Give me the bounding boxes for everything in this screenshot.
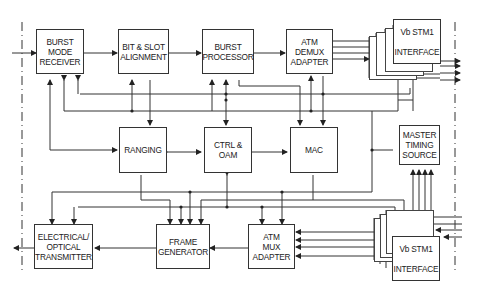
ctrl-oam-block: CTRL & OAM xyxy=(204,127,252,173)
ranging-block: RANGING xyxy=(119,127,167,173)
ctrl-oam-label: CTRL & OAM xyxy=(214,140,242,160)
electrical-optical-transmitter-block: ELECTRICAL/ OPTICAL TRANSMITTER xyxy=(34,224,93,269)
burst-processor-label: BURST PROCESSOR xyxy=(202,42,253,62)
burst-mode-receiver-block: BURST MODE RECEIVER xyxy=(36,29,84,74)
bit-slot-alignment-label: BIT & SLOT ALIGNMENT xyxy=(120,42,167,62)
vb-stm1-interface-top-label: Vb STM1 INTERFACE xyxy=(395,27,440,57)
bit-slot-alignment-block: BIT & SLOT ALIGNMENT xyxy=(118,29,169,74)
burst-mode-receiver-label: BURST MODE RECEIVER xyxy=(40,37,81,67)
ranging-label: RANGING xyxy=(124,145,161,155)
vb-stm1-interface-top-block: Vb STM1 INTERFACE xyxy=(393,19,441,64)
vb-stm1-interface-bottom-block: Vb STM1 INTERFACE xyxy=(392,236,440,281)
vb-stm1-interface-bottom-label: Vb STM1 INTERFACE xyxy=(394,244,439,274)
electrical-optical-transmitter-label: ELECTRICAL/ OPTICAL TRANSMITTER xyxy=(35,232,92,262)
atm-demux-adapter-label: ATM DEMUX ADAPTER xyxy=(291,37,329,67)
master-timing-source-block: MASTER TIMING SOURCE xyxy=(399,125,440,165)
atm-mux-adapter-block: ATM MUX ADAPTER xyxy=(248,224,295,269)
mac-block: MAC xyxy=(290,127,338,173)
atm-demux-adapter-block: ATM DEMUX ADAPTER xyxy=(286,29,333,74)
master-timing-source-label: MASTER TIMING SOURCE xyxy=(402,130,436,160)
frame-generator-label: FRAME GENERATOR xyxy=(158,237,208,257)
frame-generator-block: FRAME GENERATOR xyxy=(156,224,210,269)
mac-label: MAC xyxy=(305,145,323,155)
atm-mux-adapter-label: ATM MUX ADAPTER xyxy=(253,232,291,262)
burst-processor-block: BURST PROCESSOR xyxy=(202,29,254,74)
